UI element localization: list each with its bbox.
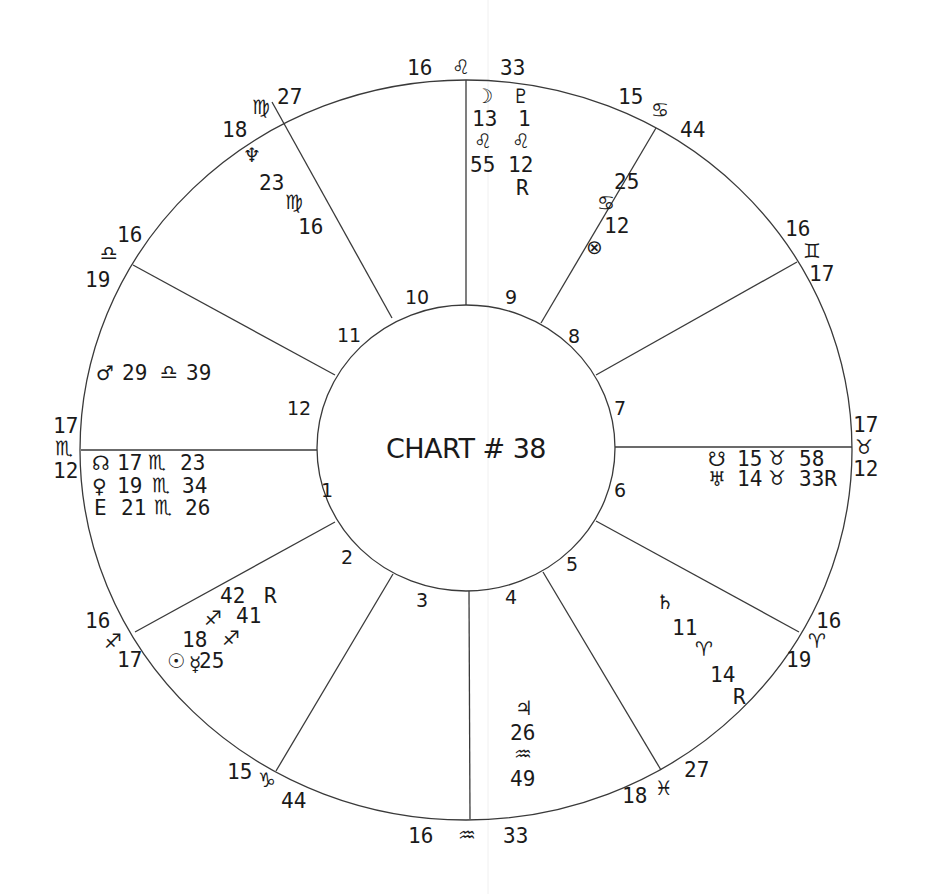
house-number-11: 11 <box>337 324 361 346</box>
planet-moon: ☽ 13 ♌ 55 <box>470 84 497 177</box>
cusp-7-minute: 12 <box>853 457 878 481</box>
taurus-sign-icon: ♉ <box>855 435 873 459</box>
house-number-8: 8 <box>568 325 580 347</box>
uranus-icon: ♅ <box>708 467 726 491</box>
fortune-minute: 25 <box>614 170 639 194</box>
spoke-7-8 <box>596 262 797 375</box>
earth-minute: 26 <box>185 496 210 520</box>
cusp-11-degree: 18 <box>222 118 247 142</box>
cusp-4-minute: 33 <box>503 824 528 848</box>
cusp-3-degree: 15 <box>227 760 252 784</box>
fortune-sign-icon: ♋ <box>597 191 615 215</box>
chart-title: CHART # 38 <box>386 433 546 464</box>
north-node-degree: 17 <box>117 451 142 475</box>
planet-pluto: ♇ 1 ♌ 12 R <box>508 84 533 200</box>
cusp-4-degree: 16 <box>408 824 433 848</box>
part-of-fortune-icon: ⊗ <box>586 235 603 259</box>
neptune-sign-icon: ♍ <box>285 190 303 214</box>
neptune-degree: 23 <box>259 171 284 195</box>
house-number-5: 5 <box>566 553 578 575</box>
aquarius-sign-icon: ♒ <box>458 823 476 847</box>
venus-minute: 34 <box>182 474 207 498</box>
moon-degree: 13 <box>472 107 497 131</box>
cusp-8-degree: 16 <box>785 217 810 241</box>
venus-degree: 19 <box>117 474 142 498</box>
planet-sun: 18 ♐ ☉ 25 <box>167 626 240 673</box>
saturn-minute: 14 <box>710 663 735 687</box>
cusp-1-degree: 17 <box>53 414 78 438</box>
planet-venus: ♀ 19 ♏ 34 <box>92 473 207 498</box>
planet-part-of-fortune: 25 ♋ 12 ⊗ <box>586 170 639 259</box>
venus-icon: ♀ <box>92 474 107 498</box>
cusp-8-minute: 17 <box>809 262 834 286</box>
saturn-retrograde: R <box>733 685 746 709</box>
spoke-1-2 <box>135 522 335 632</box>
spoke-ic <box>469 591 470 819</box>
moon-minute: 55 <box>470 153 495 177</box>
spoke-2-3 <box>276 574 393 771</box>
sun-sign-icon: ♐ <box>222 626 240 650</box>
cusp-3-minute: 44 <box>281 789 306 813</box>
mercury-degree: 41 <box>236 604 261 628</box>
scorpio-sign-icon: ♏ <box>55 436 73 460</box>
house-number-3: 3 <box>416 589 428 611</box>
cusp-12-minute: 19 <box>85 268 110 292</box>
mars-degree: 29 <box>122 361 147 385</box>
uranus-sign-icon: ♉ <box>768 466 786 490</box>
house-number-6: 6 <box>614 479 626 501</box>
libra-sign-icon: ♎ <box>100 241 118 265</box>
house-number-1: 1 <box>321 479 333 501</box>
cusp-11-minute: 27 <box>277 85 302 109</box>
virgo-sign-icon: ♍ <box>252 95 270 119</box>
mars-sign-icon: ♎ <box>160 360 178 384</box>
saturn-icon: ♄ <box>656 590 674 614</box>
cusp-9-minute: 44 <box>680 118 705 142</box>
capricorn-sign-icon: ♑ <box>258 768 276 792</box>
pluto-sign-icon: ♌ <box>512 129 530 153</box>
earth-icon: E <box>94 496 107 520</box>
pluto-degree: 1 <box>518 107 531 131</box>
astrology-chart-wheel: CHART # 38 1 2 3 4 5 6 7 8 9 10 11 12 16… <box>0 0 939 894</box>
cusp-9-degree: 15 <box>618 85 643 109</box>
north-node-icon: ☊ <box>92 451 110 475</box>
cusp-7-degree: 17 <box>853 413 878 437</box>
uranus-degree: 14 <box>737 467 762 491</box>
neptune-minute: 16 <box>298 215 323 239</box>
planet-neptune: ♆ 23 ♍ 16 <box>243 143 323 239</box>
leo-sign-icon: ♌ <box>452 55 470 79</box>
pluto-icon: ♇ <box>512 84 530 108</box>
uranus-minute: 33R <box>799 467 837 491</box>
house-number-4: 4 <box>505 586 517 608</box>
north-node-sign-icon: ♏ <box>148 450 166 474</box>
earth-degree: 21 <box>121 496 146 520</box>
jupiter-icon: ♃ <box>515 696 533 720</box>
planet-uranus: ♅ 14 ♉ 33R <box>708 466 837 491</box>
mars-icon: ♂ <box>96 361 114 385</box>
moon-icon: ☽ <box>475 84 493 108</box>
earth-sign-icon: ♏ <box>154 495 172 519</box>
sun-minute: 25 <box>199 649 224 673</box>
cusp-5-minute: 27 <box>684 758 709 782</box>
jupiter-sign-icon: ♒ <box>514 742 532 766</box>
cusp-12-degree: 16 <box>117 223 142 247</box>
pluto-minute: 12 <box>508 153 533 177</box>
planet-saturn: ♄ 11 ♈ 14 R <box>656 590 746 709</box>
house-number-7: 7 <box>614 397 626 419</box>
mercury-sign-icon: ♐ <box>204 606 222 630</box>
fortune-degree: 12 <box>604 214 629 238</box>
cusp-10-degree: 16 <box>407 56 432 80</box>
cusp-10-minute: 33 <box>500 56 525 80</box>
spoke-11-12 <box>133 265 335 375</box>
gemini-sign-icon: ♊ <box>803 239 821 263</box>
house-number-10: 10 <box>405 286 429 308</box>
planet-jupiter: ♃ 26 ♒ 49 <box>510 696 535 791</box>
spoke-4-5 <box>543 572 661 770</box>
pluto-retrograde: R <box>516 176 529 200</box>
venus-sign-icon: ♏ <box>152 473 170 497</box>
mars-minute: 39 <box>186 361 211 385</box>
cusp-1-minute: 12 <box>53 459 78 483</box>
planet-earth: E 21 ♏ 26 <box>94 495 210 520</box>
cusp-2-minute: 17 <box>117 648 142 672</box>
cusp-6-minute: 19 <box>786 648 811 672</box>
house-number-2: 2 <box>341 546 353 568</box>
